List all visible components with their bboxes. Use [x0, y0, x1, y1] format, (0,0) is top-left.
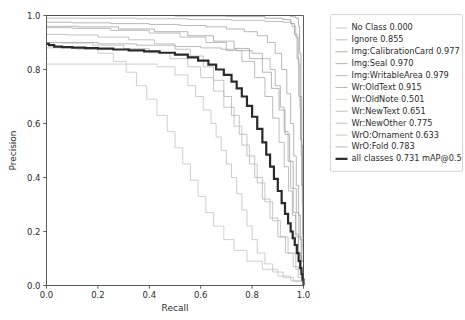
legend: No Class 0.000Ignore 0.855Img:Calibratio… — [331, 15, 463, 172]
legend-label: Wr:OldNote 0.501 — [352, 94, 425, 104]
x-tick-label: 0.0 — [40, 290, 54, 300]
legend-label: all classes 0.731 mAP@0.5 — [352, 153, 462, 163]
x-tick-label: 0.8 — [245, 290, 259, 300]
legend-label: Ignore 0.855 — [352, 34, 404, 44]
legend-label: WrO:Fold 0.783 — [352, 141, 415, 151]
x-axis-title: Recall — [162, 303, 189, 313]
legend-label: WrO:Ornament 0.633 — [352, 130, 439, 140]
x-tick-label: 0.2 — [91, 290, 105, 300]
legend-label: Wr:OldText 0.915 — [352, 82, 422, 92]
precision-recall-figure: 0.00.20.40.60.81.00.00.20.40.60.81.0Reca… — [0, 0, 465, 320]
y-tick-label: 0.8 — [27, 65, 41, 75]
y-tick-label: 0.0 — [27, 281, 41, 291]
y-tick-label: 1.0 — [27, 11, 41, 21]
x-tick-label: 0.6 — [194, 290, 208, 300]
legend-label: Img:WritableArea 0.979 — [352, 70, 449, 80]
legend-label: No Class 0.000 — [352, 22, 413, 32]
legend-label: Wr:NewOther 0.775 — [352, 118, 433, 128]
x-tick-label: 1.0 — [297, 290, 311, 300]
y-tick-label: 0.2 — [27, 227, 41, 237]
y-tick-label: 0.6 — [27, 119, 41, 129]
y-tick-label: 0.4 — [27, 173, 41, 183]
y-axis-title: Precision — [8, 130, 18, 170]
legend-label: Wr:NewText 0.651 — [352, 106, 426, 116]
legend-label: Img:CalibrationCard 0.977 — [352, 46, 460, 56]
x-tick-label: 0.4 — [143, 290, 157, 300]
legend-label: Img:Seal 0.970 — [352, 58, 414, 68]
